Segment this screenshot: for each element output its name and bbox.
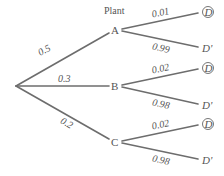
prob-c-dprime: 0.98 (151, 152, 170, 166)
leaf-c-dprime: D' (201, 154, 213, 166)
prob-a-dprime: 0.99 (151, 40, 170, 54)
node-c: C (111, 136, 118, 148)
node-b: B (111, 80, 118, 92)
prob-b: 0.3 (58, 73, 71, 84)
leaf-a-dprime: D' (201, 42, 213, 54)
leaf-a-d: D (204, 6, 213, 18)
probability-tree: Plant 0.5 0.3 0.2 A B C 0.01 0.99 0.02 0… (0, 0, 224, 176)
prob-b-dprime: 0.98 (151, 96, 170, 110)
prob-b-d: 0.02 (151, 61, 170, 75)
leaf-c-d: D (204, 118, 213, 130)
column-header-plant: Plant (104, 5, 125, 16)
node-a: A (111, 24, 119, 36)
prob-c-d: 0.02 (151, 117, 170, 131)
leaf-b-d: D (204, 62, 213, 74)
prob-a: 0.5 (36, 42, 52, 58)
prob-a-d: 0.01 (151, 5, 170, 19)
leaf-b-dprime: D' (201, 99, 213, 111)
prob-c: 0.2 (59, 115, 75, 131)
edge-root-c (16, 86, 109, 139)
